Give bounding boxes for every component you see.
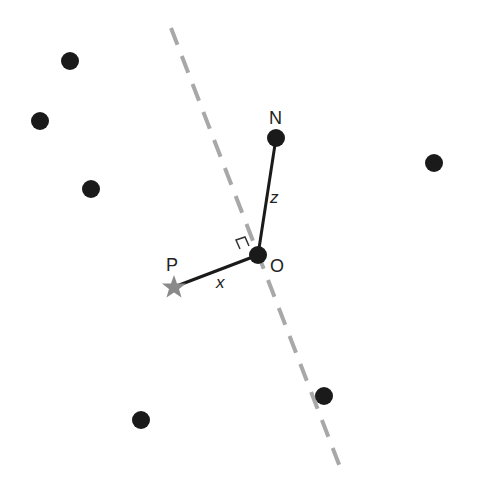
diagram-canvas: N O P z x — [0, 0, 477, 488]
right-angle-marker — [236, 237, 249, 249]
dot — [31, 112, 49, 130]
point-n — [267, 129, 285, 147]
label-p: P — [166, 255, 178, 275]
point-o — [249, 246, 267, 264]
dot — [425, 154, 443, 172]
label-n: N — [269, 108, 282, 128]
dot — [132, 411, 150, 429]
dot — [315, 387, 333, 405]
label-x: x — [215, 273, 225, 292]
label-o: O — [270, 256, 284, 276]
label-z: z — [269, 188, 279, 207]
dot — [61, 52, 79, 70]
star-icon — [162, 275, 186, 298]
dot — [82, 180, 100, 198]
